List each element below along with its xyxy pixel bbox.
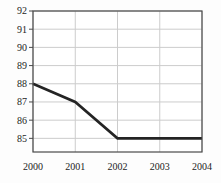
y-tick-label: 92 xyxy=(17,5,27,16)
x-tick-label: 2003 xyxy=(150,161,170,172)
x-tick-label: 2001 xyxy=(65,161,85,172)
chart-figure: 858687888990919220002001200220032004 xyxy=(0,0,221,183)
y-tick-label: 86 xyxy=(17,115,27,126)
x-tick-label: 2004 xyxy=(192,161,212,172)
line-chart: 858687888990919220002001200220032004 xyxy=(0,0,221,183)
y-tick-label: 91 xyxy=(17,24,27,35)
y-tick-label: 90 xyxy=(17,42,27,53)
y-tick-label: 87 xyxy=(17,96,27,107)
y-tick-label: 88 xyxy=(17,78,27,89)
x-tick-label: 2000 xyxy=(23,161,43,172)
x-tick-label: 2002 xyxy=(108,161,128,172)
y-tick-label: 85 xyxy=(17,133,27,144)
y-tick-label: 89 xyxy=(17,60,27,71)
